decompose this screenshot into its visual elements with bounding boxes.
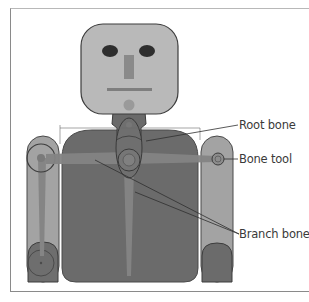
branch-bones-label: Branch bones <box>239 227 309 241</box>
bone-tool-label: Bone tool <box>239 152 292 166</box>
right-eye <box>139 45 155 57</box>
character-illustration <box>0 0 309 302</box>
nose <box>124 55 134 79</box>
left-eye <box>102 45 118 57</box>
root-bone-label: Root bone <box>239 118 296 132</box>
mouth <box>107 88 152 91</box>
head <box>81 24 178 114</box>
head-joint <box>124 100 135 111</box>
bone-tool-marker <box>212 153 224 165</box>
